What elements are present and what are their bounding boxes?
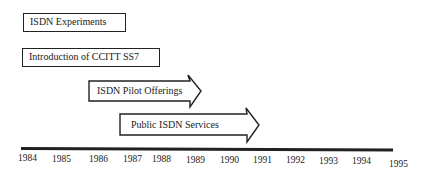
year-label-1988: 1988 [152,154,171,164]
year-label-1985: 1985 [52,154,71,164]
year-label-1984: 1984 [18,153,37,163]
year-label-1992: 1992 [286,155,305,165]
year-label-1986: 1986 [89,154,108,164]
year-label-1990: 1990 [220,155,239,165]
year-label-1991: 1991 [253,155,272,165]
year-label-1994: 1994 [352,156,371,166]
isdn-timeline-diagram: ISDN Experiments Introduction of CCITT S… [0,0,429,177]
year-label-1993: 1993 [319,156,338,166]
arrow-label-public-isdn-services: Public ISDN Services [131,119,219,131]
arrow-label-isdn-pilot-offerings: ISDN Pilot Offerings [97,85,182,97]
year-label-1989: 1989 [186,155,205,165]
year-label-1987: 1987 [123,154,142,164]
year-label-1995: 1995 [389,159,408,169]
